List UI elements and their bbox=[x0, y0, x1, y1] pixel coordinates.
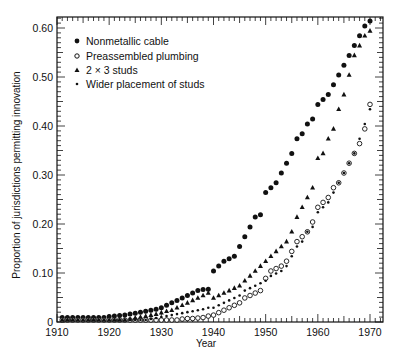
data-point bbox=[202, 308, 205, 311]
data-point bbox=[222, 308, 227, 313]
data-point bbox=[332, 191, 335, 194]
data-point bbox=[248, 293, 253, 298]
data-point bbox=[195, 295, 200, 300]
data-point bbox=[315, 156, 320, 161]
data-point bbox=[207, 306, 210, 309]
data-point bbox=[301, 240, 304, 243]
data-point bbox=[206, 290, 211, 295]
data-point bbox=[228, 299, 231, 302]
legend-item-2x3-studs: 2 × 3 studs bbox=[75, 64, 138, 76]
data-point bbox=[206, 314, 211, 319]
data-point bbox=[279, 171, 284, 176]
data-point bbox=[216, 310, 221, 315]
axis-ticks bbox=[57, 17, 383, 322]
data-point bbox=[352, 43, 357, 48]
data-point bbox=[294, 136, 299, 141]
data-point bbox=[143, 309, 148, 314]
data-point bbox=[174, 298, 179, 303]
data-point bbox=[196, 316, 201, 321]
data-point bbox=[305, 195, 310, 200]
data-point bbox=[300, 131, 305, 136]
y-axis-tick-labels: 00.100.200.300.400.500.60 bbox=[33, 22, 54, 328]
legend-label: Preassembled plumbing bbox=[86, 50, 199, 62]
data-point bbox=[124, 319, 127, 322]
data-point bbox=[326, 136, 331, 141]
data-point bbox=[113, 319, 116, 322]
data-point bbox=[352, 53, 357, 58]
data-point bbox=[336, 73, 341, 78]
data-point bbox=[190, 316, 195, 321]
data-point bbox=[341, 63, 346, 68]
data-point bbox=[362, 33, 367, 38]
data-point bbox=[233, 297, 236, 300]
data-point bbox=[264, 280, 267, 283]
data-point bbox=[263, 258, 268, 263]
data-point bbox=[195, 288, 200, 293]
data-point bbox=[159, 305, 164, 310]
data-point bbox=[363, 123, 366, 126]
data-point bbox=[164, 308, 169, 313]
data-point bbox=[180, 317, 185, 322]
data-point bbox=[185, 300, 190, 305]
data-point bbox=[284, 161, 289, 166]
data-point bbox=[92, 319, 95, 322]
data-point bbox=[331, 82, 336, 87]
data-point bbox=[244, 289, 247, 292]
data-point bbox=[71, 319, 74, 322]
data-point bbox=[274, 180, 279, 185]
data-point bbox=[118, 319, 121, 322]
data-point bbox=[347, 72, 352, 77]
data-point bbox=[154, 307, 159, 312]
data-point bbox=[169, 300, 174, 305]
data-point bbox=[159, 318, 164, 323]
data-point bbox=[348, 162, 351, 165]
data-point bbox=[326, 195, 331, 200]
data-point bbox=[144, 319, 147, 322]
data-point bbox=[321, 200, 326, 205]
data-point bbox=[310, 117, 315, 122]
data-point bbox=[181, 312, 184, 315]
data-point bbox=[237, 301, 242, 306]
data-point bbox=[185, 293, 190, 298]
data-point bbox=[169, 307, 174, 312]
data-point bbox=[253, 268, 258, 273]
data-point bbox=[143, 313, 148, 318]
x-tick-label: 1940 bbox=[202, 326, 226, 338]
x-tick-label: 1970 bbox=[358, 326, 382, 338]
data-point bbox=[310, 185, 315, 190]
legend-label: 2 × 3 studs bbox=[86, 64, 138, 76]
data-point bbox=[159, 310, 164, 315]
data-point bbox=[191, 310, 194, 313]
y-tick-label: 0.20 bbox=[33, 218, 54, 230]
data-point bbox=[285, 265, 288, 268]
data-point bbox=[217, 304, 220, 307]
data-point bbox=[305, 122, 310, 127]
data-point bbox=[317, 211, 320, 214]
data-point bbox=[358, 137, 361, 140]
data-point bbox=[289, 249, 294, 254]
data-point bbox=[227, 288, 232, 293]
x-tick-label: 1910 bbox=[45, 326, 69, 338]
data-point bbox=[211, 269, 216, 274]
y-axis-label: Proportion of jurisdictions permitting i… bbox=[11, 71, 22, 278]
data-point bbox=[362, 127, 367, 132]
data-point bbox=[201, 293, 206, 298]
filled-triangle-marker-icon bbox=[75, 68, 80, 73]
data-point bbox=[216, 264, 221, 269]
data-point bbox=[294, 214, 299, 219]
data-point bbox=[242, 234, 247, 239]
data-point bbox=[201, 287, 206, 292]
data-point bbox=[337, 182, 340, 185]
data-point bbox=[357, 141, 362, 146]
data-point bbox=[311, 226, 314, 229]
series-preassembled-plumbing bbox=[60, 102, 372, 322]
data-point bbox=[139, 319, 142, 322]
data-point bbox=[279, 244, 284, 249]
data-point bbox=[232, 285, 237, 290]
data-point bbox=[315, 102, 320, 107]
data-point bbox=[190, 291, 195, 296]
data-point bbox=[259, 282, 262, 285]
x-axis-label: Year bbox=[196, 338, 217, 349]
data-point bbox=[223, 302, 226, 305]
data-point bbox=[341, 92, 346, 97]
